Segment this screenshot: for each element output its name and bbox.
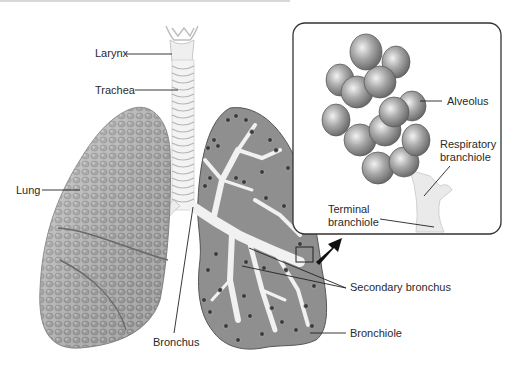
label-secondary-bronchus: Secondary bronchus — [350, 281, 451, 294]
label-respiratory-branchiole-line2: branchiole — [440, 151, 491, 164]
label-lung: Lung — [16, 184, 40, 197]
label-bronchus: Bronchus — [153, 336, 199, 349]
label-alveolus: Alveolus — [447, 95, 489, 108]
label-terminal-branchiole-line1: Terminal — [328, 203, 370, 216]
diagram-artwork — [0, 0, 523, 368]
respiratory-diagram: Larynx Trachea Lung Bronchus Alveolus Re… — [0, 0, 523, 368]
magnify-arrow-icon — [316, 238, 342, 265]
label-larynx: Larynx — [95, 47, 128, 60]
label-terminal-branchiole-line2: branchiole — [328, 216, 379, 229]
label-respiratory-branchiole-line1: Respiratory — [440, 138, 496, 151]
label-trachea: Trachea — [95, 84, 135, 97]
left-lung-shape — [40, 107, 171, 348]
label-bronchiole: Bronchiole — [350, 327, 402, 340]
larynx-shape — [166, 26, 198, 62]
